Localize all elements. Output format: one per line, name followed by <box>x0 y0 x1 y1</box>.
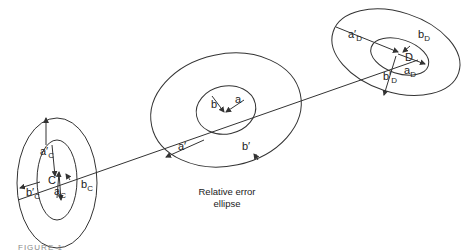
d-a-prime: a′D <box>348 28 362 43</box>
relative-outer-ellipse <box>140 39 312 180</box>
relative-b-prime: b′ <box>242 140 250 152</box>
baseline-line <box>18 60 418 200</box>
relative-b: b <box>211 98 217 110</box>
d-outer-ellipse <box>321 0 471 111</box>
relative-error-ellipses <box>140 39 312 180</box>
d-b: bD <box>418 28 430 43</box>
relative-a-prime: a′ <box>178 140 186 152</box>
caption-line-2: ellipse <box>214 198 241 209</box>
caption-line-1: Relative error <box>198 186 255 197</box>
relative-inner-ellipse <box>192 80 261 139</box>
station-d-ellipses <box>321 0 471 111</box>
c-b: bC <box>81 178 93 193</box>
figure-label: FIGURE 1 <box>18 243 63 251</box>
c-b-prime: b′C <box>26 186 40 201</box>
d-a: aD <box>404 64 416 79</box>
error-ellipse-diagram: C a′C b′C aC bC b a a′ b′ Relative error… <box>0 0 472 251</box>
relative-a: a <box>235 93 242 105</box>
d-b-prime: b′D <box>383 70 397 85</box>
d-label: D <box>405 51 413 63</box>
c-a: aC <box>54 185 66 200</box>
